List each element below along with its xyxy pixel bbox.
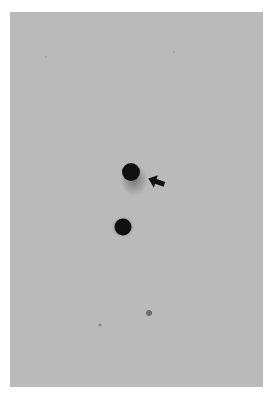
tiny-speck bbox=[173, 51, 175, 53]
tiny-speck bbox=[45, 56, 47, 58]
blot-image bbox=[10, 12, 263, 387]
autoradiograph-panel bbox=[10, 12, 263, 387]
lower-spot bbox=[115, 219, 132, 236]
faint-spot bbox=[146, 310, 152, 316]
upper-spot bbox=[122, 163, 140, 181]
tiny-speck bbox=[99, 324, 102, 327]
